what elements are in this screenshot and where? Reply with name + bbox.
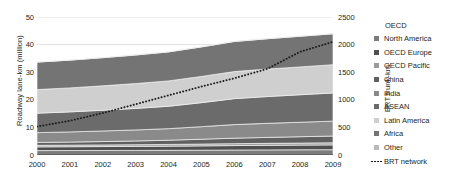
legend-item-label: OECD Pacific: [384, 61, 430, 70]
x-tick-2006: 2006: [217, 160, 251, 169]
legend-swatch-icon: [374, 118, 379, 123]
x-tick-2001: 2001: [53, 160, 87, 169]
legend-item-label: India: [384, 89, 400, 98]
x-tick-2009: 2009: [316, 160, 350, 169]
x-tick-2008: 2008: [283, 160, 317, 169]
legend-item-africa[interactable]: Africa: [374, 127, 453, 141]
chart-figure: Roadway lane-km (million) BRT trunk-km 0…: [0, 0, 453, 181]
legend-swatch-icon: [374, 104, 379, 109]
legend-item-label: BRT network: [384, 157, 427, 166]
legend-item-oecd-europe[interactable]: OECD Europe: [374, 46, 453, 60]
y-tick-right-2000: 2000: [338, 40, 360, 49]
legend-item-label: OECD Europe: [384, 48, 432, 57]
chart-legend: OECD North AmericaOECD EuropeOECD Pacifi…: [374, 19, 453, 168]
stacked-area-svg: [37, 17, 333, 155]
legend-swatch-icon: [374, 36, 379, 41]
legend-group-header: OECD: [385, 19, 453, 32]
x-tick-2002: 2002: [86, 160, 120, 169]
legend-item-asean[interactable]: ASEAN: [374, 100, 453, 114]
y-tick-left-30: 30: [16, 68, 34, 77]
legend-swatch-icon: [374, 91, 379, 96]
legend-swatch-icon: [374, 145, 379, 150]
legend-item-label: ASEAN: [384, 102, 409, 111]
x-tick-2000: 2000: [20, 160, 54, 169]
y-tick-right-0: 0: [338, 151, 360, 160]
legend-item-north-america[interactable]: North America: [374, 32, 453, 46]
y-tick-left-10: 10: [16, 123, 34, 132]
y-tick-right-1000: 1000: [338, 95, 360, 104]
plot-area: [37, 17, 333, 155]
legend-swatch-icon: [374, 77, 379, 82]
y-tick-left-20: 20: [16, 95, 34, 104]
legend-item-oecd-pacific[interactable]: OECD Pacific: [374, 59, 453, 73]
x-tick-2003: 2003: [119, 160, 153, 169]
x-tick-2004: 2004: [152, 160, 186, 169]
area-series-group: [37, 34, 333, 155]
legend-swatch-icon: [374, 50, 379, 55]
legend-item-india[interactable]: India: [374, 86, 453, 100]
y-tick-right-2500: 2500: [338, 13, 360, 22]
legend-item-other[interactable]: Other: [374, 141, 453, 155]
legend-item-china[interactable]: China: [374, 73, 453, 87]
legend-swatch-icon: [374, 63, 379, 68]
legend-item-label: Africa: [384, 129, 403, 138]
legend-swatch-icon: [374, 131, 379, 136]
x-tick-2005: 2005: [184, 160, 218, 169]
legend-item-label: Other: [384, 143, 403, 152]
legend-items: North AmericaOECD EuropeOECD PacificChin…: [374, 32, 453, 168]
dotted-line-icon: [374, 159, 379, 164]
legend-item-label: Latin America: [384, 116, 429, 125]
y-tick-left-40: 40: [16, 40, 34, 49]
legend-item-label: North America: [384, 34, 432, 43]
legend-item-label: China: [384, 75, 404, 84]
y-tick-left-50: 50: [16, 13, 34, 22]
legend-item-brt-network[interactable]: BRT network: [374, 154, 453, 168]
y-tick-right-1500: 1500: [338, 68, 360, 77]
y-tick-right-500: 500: [338, 123, 360, 132]
legend-item-latin-america[interactable]: Latin America: [374, 114, 453, 128]
y-tick-left-0: 0: [16, 151, 34, 160]
x-tick-2007: 2007: [250, 160, 284, 169]
